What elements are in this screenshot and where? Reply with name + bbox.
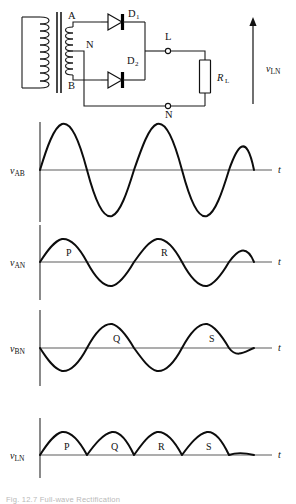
label-diode-d1-subscript: 1 — [136, 13, 140, 21]
vln-pulse-label-s: S — [206, 441, 212, 452]
label-diode-d2-subscript: 2 — [135, 60, 139, 68]
van-signal-label: vAN — [10, 257, 26, 270]
label-node-n-bottom: N — [165, 109, 173, 120]
label-output-voltage: vLN — [266, 63, 281, 76]
figure-caption: Fig. 12.7 Full-wave Rectification — [6, 495, 292, 504]
vbn-pulse-label-q: Q — [113, 333, 121, 344]
label-diode-d2: D — [127, 55, 135, 66]
label-load-resistor-subscript: L — [225, 77, 229, 85]
vbn-signal-label: vBN — [10, 343, 25, 356]
vln-waveform — [40, 432, 254, 455]
cathode-bus — [145, 22, 165, 80]
vbn-pulse-label-s: S — [209, 333, 215, 344]
diode-d2 — [101, 72, 145, 88]
plot-van: vAN t P R — [10, 225, 281, 300]
transformer-primary — [22, 17, 49, 88]
terminal-n — [165, 103, 170, 108]
load-resistor — [200, 60, 211, 93]
plot-vln: vLN t P Q R S — [10, 418, 281, 478]
vln-signal-label: vLN — [10, 450, 25, 463]
vln-pulse-label-r: R — [158, 441, 165, 452]
label-node-b: B — [68, 80, 75, 91]
label-diode-d1: D — [128, 8, 136, 19]
van-pulse-label-p: P — [66, 247, 72, 258]
label-node-a: A — [68, 10, 76, 21]
label-node-n-tap: N — [86, 39, 94, 50]
secondary-coil — [66, 27, 74, 75]
plot-vbn: vBN t Q S — [10, 310, 281, 386]
vln-axis-label: t — [278, 449, 281, 460]
circuit-diagram: A B N D 1 D 2 — [22, 8, 281, 120]
van-axis-label: t — [278, 256, 281, 267]
terminal-l — [165, 48, 170, 53]
primary-coil — [40, 17, 49, 88]
label-node-l: L — [165, 31, 171, 42]
plot-vab: vAB t — [10, 122, 281, 222]
wire-l-to-load — [171, 51, 205, 60]
vab-axis-label: t — [278, 164, 281, 175]
vab-signal-label: vAB — [10, 165, 25, 178]
vln-pulse-label-q: Q — [111, 441, 119, 452]
vbn-axis-label: t — [278, 342, 281, 353]
label-load-resistor: R — [216, 72, 224, 83]
van-pulse-label-r: R — [161, 247, 168, 258]
transformer-core — [57, 12, 61, 93]
vln-pulse-label-p: P — [64, 441, 70, 452]
output-voltage-arrow — [249, 17, 256, 104]
